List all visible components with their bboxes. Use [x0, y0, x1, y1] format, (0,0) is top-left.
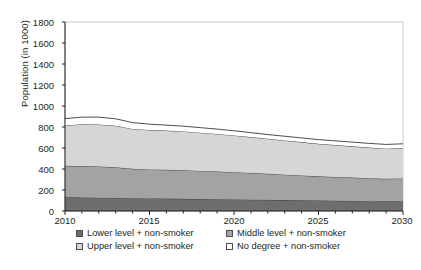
legend-label-lower-level: Lower level + non-smoker	[87, 228, 194, 239]
legend-swatch-upper-level	[76, 243, 83, 250]
legend-swatch-no-degree	[226, 243, 233, 250]
chart-figure: Population (in 1000) 1800 1600 1400 1200…	[0, 0, 421, 270]
legend-item-no-degree[interactable]: No degree + non-smoker	[226, 241, 376, 252]
chart-legend: Lower level + non-smoker Middle level + …	[76, 228, 406, 252]
legend-swatch-middle-level	[226, 230, 233, 237]
legend-label-middle-level: Middle level + non-smoker	[237, 228, 346, 239]
legend-label-no-degree: No degree + non-smoker	[237, 241, 340, 252]
legend-item-middle-level[interactable]: Middle level + non-smoker	[226, 228, 376, 239]
legend-swatch-lower-level	[76, 230, 83, 237]
legend-label-upper-level: Upper level + non-smoker	[87, 241, 194, 252]
legend-item-lower-level[interactable]: Lower level + non-smoker	[76, 228, 226, 239]
legend-item-upper-level[interactable]: Upper level + non-smoker	[76, 241, 226, 252]
